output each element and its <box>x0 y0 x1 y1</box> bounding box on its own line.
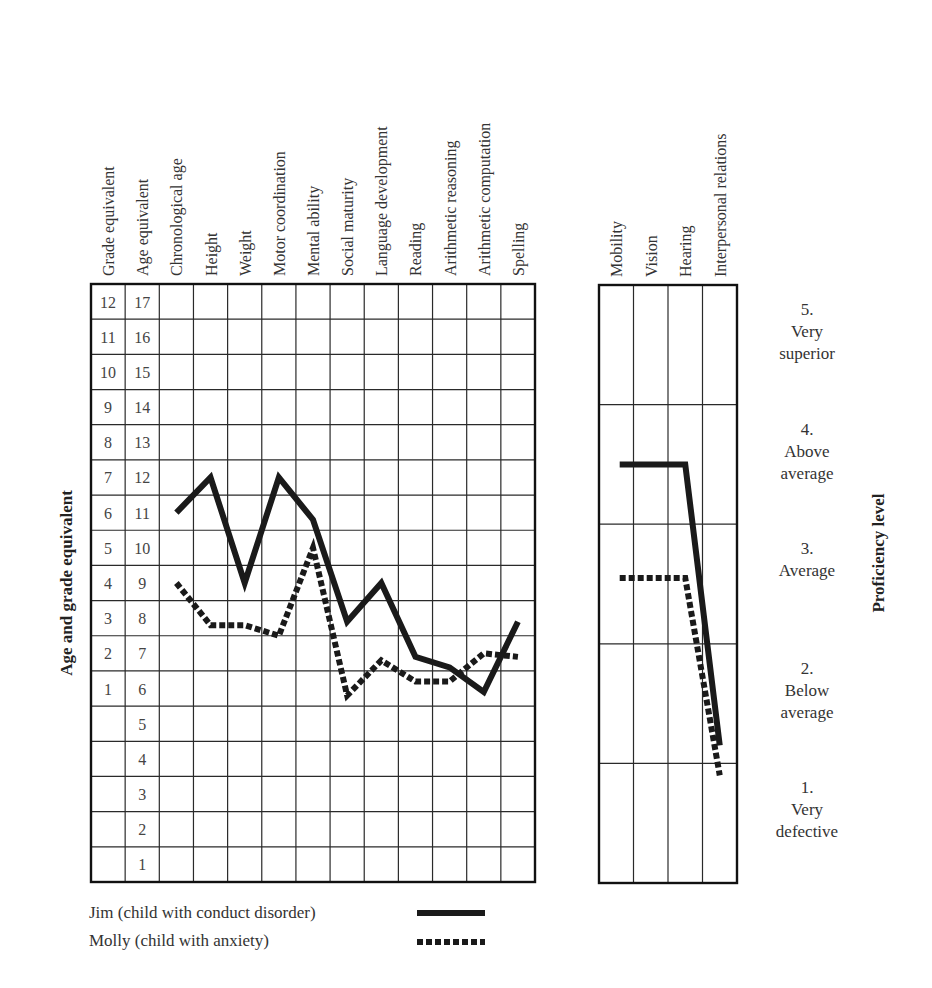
age-tick: 2 <box>138 821 146 838</box>
column-header: Mental ability <box>305 186 323 276</box>
column-header: Hearing <box>677 225 695 277</box>
column-header: Mobility <box>608 221 626 277</box>
column-header: Language development <box>373 126 391 276</box>
age-tick: 13 <box>134 434 150 451</box>
grade-tick: 1 <box>104 681 112 698</box>
legend-label-jim: Jim (child with conduct disorder) <box>89 903 316 922</box>
column-header: Social maturity <box>339 178 357 276</box>
column-header: Spelling <box>510 223 528 276</box>
level-number: 2. <box>801 659 814 678</box>
level-label: average <box>781 464 834 483</box>
proficiency-level-labels: 5.Verysuperior4.Aboveaverage3.Average2.B… <box>776 300 838 841</box>
right-series-lines <box>620 464 720 775</box>
grade-tick: 11 <box>100 329 115 346</box>
level-label: Above <box>784 442 829 461</box>
level-number: 4. <box>801 420 814 439</box>
column-header: Reading <box>407 223 425 276</box>
column-header: Arithmetic computation <box>476 123 494 276</box>
grade-tick: 7 <box>104 469 112 486</box>
age-tick: 3 <box>138 786 146 803</box>
level-number: 5. <box>801 300 814 319</box>
column-header: Weight <box>237 230 255 276</box>
column-header: Arithmetic reasoning <box>442 140 460 276</box>
age-tick: 14 <box>134 399 150 416</box>
level-label: Very <box>791 800 824 819</box>
grade-tick: 4 <box>104 575 112 592</box>
age-tick: 8 <box>138 610 146 627</box>
column-header: Height <box>203 232 221 276</box>
left-grid <box>91 284 535 882</box>
y-axis-title-proficiency: Proficiency level <box>869 493 888 612</box>
age-tick: 17 <box>134 294 150 311</box>
column-header: Interpersonal relations <box>712 134 730 278</box>
age-tick: 11 <box>135 505 150 522</box>
age-tick: 5 <box>138 716 146 733</box>
column-header: Vision <box>643 235 660 277</box>
chart-canvas: Grade equivalentAge equivalentChronologi… <box>0 0 932 988</box>
level-label: superior <box>779 344 835 363</box>
grade-tick: 9 <box>104 399 112 416</box>
column-header: Age equivalent <box>134 178 152 276</box>
grade-tick: 3 <box>104 610 112 627</box>
grade-tick: 12 <box>100 294 116 311</box>
grid-frame <box>91 284 535 882</box>
y-axis-title-age-grade: Age and grade equivalent <box>57 490 76 676</box>
level-number: 1. <box>801 778 814 797</box>
grade-tick: 8 <box>104 434 112 451</box>
level-label: Very <box>791 322 824 341</box>
level-label: Average <box>779 561 835 580</box>
grade-tick: 5 <box>104 540 112 557</box>
grade-tick: 10 <box>100 364 116 381</box>
age-tick: 6 <box>138 681 146 698</box>
left-column-headers: Grade equivalentAge equivalentChronologi… <box>100 123 528 276</box>
age-tick: 15 <box>134 364 150 381</box>
right-grid <box>599 285 737 883</box>
level-label: defective <box>776 822 838 841</box>
column-header: Motor coordination <box>271 151 288 276</box>
age-tick: 4 <box>138 751 146 768</box>
age-tick: 9 <box>138 575 146 592</box>
age-tick: 1 <box>138 856 146 873</box>
age-tick: 12 <box>134 469 150 486</box>
level-label: average <box>781 703 834 722</box>
grade-tick: 2 <box>104 645 112 662</box>
level-number: 3. <box>801 539 814 558</box>
age-tick: 7 <box>138 645 146 662</box>
legend-label-molly: Molly (child with anxiety) <box>89 931 269 950</box>
level-label: Below <box>785 681 830 700</box>
grade-tick: 6 <box>104 505 112 522</box>
column-header: Grade equivalent <box>100 166 118 276</box>
legend: Jim (child with conduct disorder) Molly … <box>89 903 485 950</box>
column-header: Chronological age <box>168 158 186 276</box>
age-tick: 16 <box>134 329 150 346</box>
right-column-headers: MobilityVisionHearingInterpersonal relat… <box>608 134 730 278</box>
age-tick: 10 <box>134 540 150 557</box>
